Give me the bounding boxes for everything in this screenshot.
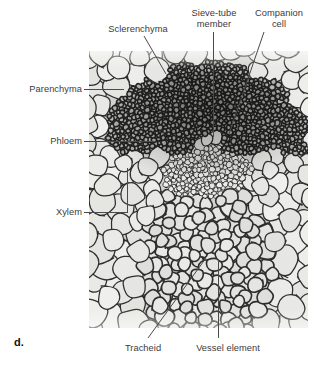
label-sieve-tube-member: Sieve-tube member [183, 8, 245, 29]
label-parenchyma: Parenchyma [6, 84, 82, 95]
leader-line-sclerenchyma [144, 36, 166, 74]
label-vessel-element: Vessel element [185, 343, 271, 354]
leader-line-companion-cell [229, 32, 264, 134]
label-tracheid: Tracheid [108, 343, 178, 354]
leader-lines-diagonal [0, 0, 324, 370]
label-sclerenchyma: Sclerenchyma [94, 24, 182, 35]
label-companion-cell: Companion cell [248, 8, 310, 29]
figure-marker: d. [14, 336, 24, 348]
leader-line-tracheid [148, 258, 206, 338]
label-xylem: Xylem [6, 207, 82, 218]
label-phloem: Phloem [6, 136, 82, 147]
figure-panel: Parenchyma Phloem Xylem Sclerenchyma Sie… [0, 0, 324, 370]
